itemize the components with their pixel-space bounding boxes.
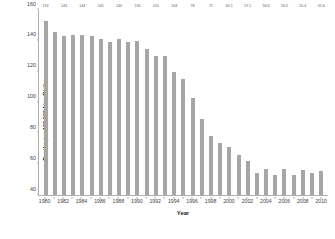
bar-slot <box>87 10 96 195</box>
bar[interactable] <box>163 56 167 195</box>
bar[interactable]: 56.6 <box>264 169 268 195</box>
bars-container: 153143144141140130120103787162.157.156.6… <box>39 10 328 195</box>
x-tick-mark <box>146 197 147 199</box>
bar-value-label: 55.4 <box>299 5 306 9</box>
bar[interactable] <box>53 32 57 195</box>
bar[interactable]: 51.6 <box>319 171 323 195</box>
y-tick-label: 60 <box>30 156 36 161</box>
bar-slot: 71 <box>206 10 215 195</box>
bar[interactable] <box>71 35 75 195</box>
bar-slot: 103 <box>170 10 179 195</box>
x-tick-mark <box>182 197 183 199</box>
x-tick-slot: 2006 <box>280 197 289 209</box>
bar-slot: 55.4 <box>298 10 307 195</box>
x-tick-slot: 1998 <box>206 197 215 209</box>
bar[interactable] <box>108 42 112 195</box>
bar[interactable]: 143 <box>62 36 66 195</box>
bar-value-label: 120 <box>153 5 159 9</box>
bar-slot <box>179 10 188 195</box>
plot-area: 160140120100806040 153143144141140130120… <box>38 10 328 196</box>
bar-value-label: 62.1 <box>226 5 233 9</box>
bar[interactable] <box>145 49 149 195</box>
bar-slot: 143 <box>59 10 68 195</box>
bar-slot <box>105 10 114 195</box>
bar-value-label: 153 <box>43 5 49 9</box>
bar-chart: Deaths per 100,000 Live Births 160140120… <box>0 0 335 239</box>
bar[interactable]: 55.4 <box>301 170 305 195</box>
bar[interactable] <box>200 119 204 195</box>
x-tick-slot: 1996 <box>188 197 197 209</box>
bar[interactable]: 62.1 <box>227 147 231 195</box>
x-tick-slot: 1990 <box>132 197 141 209</box>
bar-slot <box>124 10 133 195</box>
bar[interactable]: 120 <box>154 56 158 195</box>
y-tick-label: 160 <box>27 2 36 7</box>
bar[interactable]: 140 <box>117 39 121 195</box>
bar[interactable]: 57.1 <box>246 161 250 195</box>
bar[interactable] <box>237 155 241 195</box>
bar-value-label: 103 <box>171 5 177 9</box>
bar[interactable]: 130 <box>135 41 139 195</box>
bar-slot <box>197 10 206 195</box>
x-tick-mark <box>293 197 294 199</box>
bar[interactable] <box>90 36 94 195</box>
x-tick-slot: 1986 <box>95 197 104 209</box>
bar[interactable] <box>310 173 314 195</box>
bar-value-label: 143 <box>61 5 67 9</box>
x-tick-mark <box>53 197 54 199</box>
bar-slot <box>50 10 59 195</box>
bar[interactable] <box>218 143 222 195</box>
bar-value-label: 130 <box>134 5 140 9</box>
x-tick-slot: 2008 <box>298 197 307 209</box>
x-tick-mark <box>256 197 257 199</box>
bar-slot: 130 <box>133 10 142 195</box>
x-axis-title: Year <box>38 210 328 216</box>
x-tick-mark <box>109 197 110 199</box>
x-tick-mark <box>164 197 165 199</box>
bar[interactable]: 71 <box>209 136 213 195</box>
bar-value-label: 56.6 <box>263 5 270 9</box>
bar-slot <box>252 10 261 195</box>
bar[interactable]: 103 <box>172 72 176 195</box>
bar-slot: 144 <box>78 10 87 195</box>
bar[interactable]: 141 <box>99 39 103 195</box>
x-tick-mark <box>201 197 202 199</box>
x-tick-slot: 2004 <box>261 197 270 209</box>
bar-slot <box>142 10 151 195</box>
bar[interactable] <box>126 42 130 195</box>
bar-value-label: 56.5 <box>281 5 288 9</box>
bar[interactable]: 153 <box>44 21 48 195</box>
bar-value-label: 144 <box>79 5 85 9</box>
x-tick-mark <box>219 197 220 199</box>
bar[interactable]: 144 <box>80 35 84 195</box>
bar-value-label: 71 <box>209 5 213 9</box>
x-tick-slot: 2000 <box>224 197 233 209</box>
bar-slot: 120 <box>151 10 160 195</box>
x-tick-mark <box>238 197 239 199</box>
bar-value-label: 140 <box>116 5 122 9</box>
bar[interactable] <box>273 175 277 195</box>
bar[interactable] <box>255 173 259 195</box>
bar-slot: 62.1 <box>225 10 234 195</box>
x-tick-slot: 2002 <box>243 197 252 209</box>
bar-slot: 56.5 <box>280 10 289 195</box>
bar-value-label: 78 <box>191 5 195 9</box>
x-axis-ticks: 1980198219841986198819901992199419961998… <box>38 197 328 209</box>
x-tick-mark <box>275 197 276 199</box>
bar[interactable] <box>292 175 296 195</box>
x-tick-mark <box>127 197 128 199</box>
bar[interactable] <box>181 79 185 195</box>
bar-slot: 51.6 <box>317 10 326 195</box>
bar-slot <box>271 10 280 195</box>
bar-value-label: 141 <box>98 5 104 9</box>
bar-slot: 153 <box>41 10 50 195</box>
x-tick-slot: 1992 <box>151 197 160 209</box>
bar-slot: 57.1 <box>243 10 252 195</box>
bar[interactable]: 56.5 <box>282 169 286 195</box>
bar-value-label: 51.6 <box>318 5 325 9</box>
bar[interactable]: 78 <box>191 98 195 195</box>
bar-slot <box>216 10 225 195</box>
bar-slot <box>289 10 298 195</box>
bar-slot <box>69 10 78 195</box>
x-tick-slot: 1988 <box>114 197 123 209</box>
